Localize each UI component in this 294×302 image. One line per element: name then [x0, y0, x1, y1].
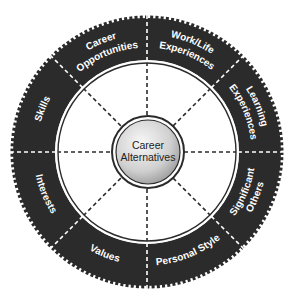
career-wheel-diagram: Work/LifeExperiencesLearningExperiencesS…: [0, 0, 294, 302]
center-hub: Career Alternatives: [112, 116, 184, 188]
center-label-line-1: Career: [132, 139, 165, 151]
center-label-line-2: Alternatives: [121, 151, 176, 163]
